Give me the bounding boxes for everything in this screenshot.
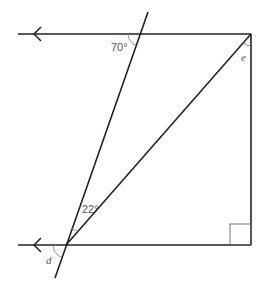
angle-arc-d — [53, 245, 62, 257]
angle-label-70: 70° — [111, 41, 128, 53]
angle-arc-70 — [128, 34, 136, 45]
geometry-diagram: 70° e 22° d — [0, 0, 268, 291]
angle-arc-22 — [72, 228, 78, 231]
angle-label-d: d — [46, 254, 52, 266]
angle-label-e: e — [241, 51, 246, 63]
angle-arc-e — [243, 43, 251, 46]
angle-label-22: 22° — [82, 203, 99, 215]
transversal-line — [55, 12, 148, 278]
right-angle-marker — [230, 224, 251, 245]
